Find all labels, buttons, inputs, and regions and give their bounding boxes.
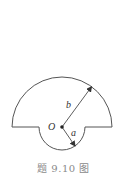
center-point [60, 125, 64, 129]
label-a: a [71, 127, 76, 138]
shape-outline [12, 77, 112, 150]
diagram-figure: b O a [0, 0, 127, 183]
label-b: b [66, 99, 71, 110]
figure-caption: 题 9.10 图 [0, 160, 127, 175]
label-o: O [48, 121, 55, 132]
